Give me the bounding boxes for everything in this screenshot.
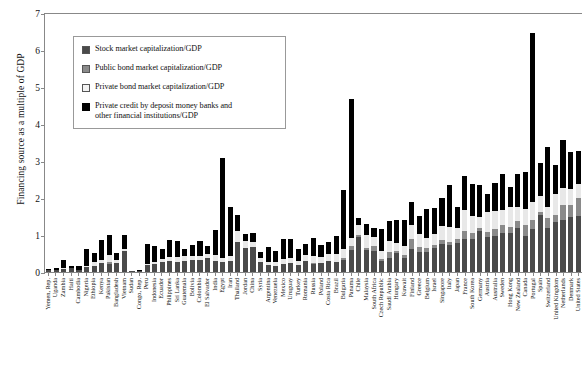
bar-segment [515, 228, 520, 272]
stacked-bar [235, 215, 240, 272]
legend-label: Private credit by deposit money banks an… [95, 101, 232, 120]
bar-segment [235, 242, 240, 272]
bar-segment [500, 225, 505, 233]
x-tick-label: Sri Lanka [174, 278, 180, 302]
bar-segment [99, 240, 104, 260]
x-tick-label: Iran [227, 278, 233, 288]
x-label-slot: Thailand [233, 277, 241, 365]
bar-segment [326, 254, 331, 261]
stacked-bar [576, 151, 581, 272]
bar-segment [515, 221, 520, 228]
bar-segment [432, 208, 437, 234]
bar-segment [152, 246, 157, 262]
x-label-slot: Hong Kong [506, 277, 514, 365]
stacked-bar-chart: Financing source as a multiple of GDP 01… [0, 0, 584, 368]
bar-segment [326, 242, 331, 254]
bar-segment [470, 216, 475, 233]
bar-segment [432, 234, 437, 245]
bar-segment [402, 246, 407, 255]
bar-segment [243, 241, 248, 248]
stacked-bar [84, 249, 89, 272]
x-tick-label: Bulgaria [340, 278, 346, 299]
bar-slot [574, 14, 582, 272]
bar-segment [394, 253, 399, 272]
stacked-bar [553, 165, 558, 272]
stacked-bar [485, 194, 490, 272]
stacked-bar [114, 253, 119, 272]
bar-segment [311, 264, 316, 272]
bar-segment [303, 244, 308, 256]
bar-segment [99, 263, 104, 272]
bar-slot [469, 14, 477, 272]
bar-segment [160, 262, 165, 272]
bar-slot [60, 14, 68, 272]
x-label-slot: Netherlands [559, 277, 567, 365]
bar-segment [122, 251, 127, 272]
bar-slot [453, 14, 461, 272]
bar-slot [385, 14, 393, 272]
bar-segment [447, 185, 452, 227]
bar-segment [492, 229, 497, 236]
bar-slot [461, 14, 469, 272]
bar-segment [439, 198, 444, 225]
bar-segment [190, 260, 195, 272]
bar-segment [424, 252, 429, 272]
stacked-bar [326, 242, 331, 272]
x-tick-label: Pakistan [105, 278, 111, 299]
bar-segment [356, 237, 361, 272]
bar-segment [462, 239, 467, 272]
x-tick-label: Haiti [67, 278, 73, 290]
bar-segment [492, 183, 497, 211]
x-tick-label: Austria [484, 278, 490, 296]
bar-segment [92, 253, 97, 262]
x-tick-label: Canada [522, 278, 528, 297]
bar-segment [84, 249, 89, 266]
bar-segment [266, 247, 271, 263]
bar-slot [287, 14, 295, 272]
bar-segment [160, 249, 165, 259]
bar-slot [506, 14, 514, 272]
x-tick-label: United Kingdom [552, 278, 558, 320]
x-tick-label: South Korea [469, 278, 475, 309]
x-label-slot: Sudan [127, 277, 135, 365]
bar-segment [455, 207, 460, 228]
x-tick-label: Romania [302, 278, 308, 300]
x-label-slot: Russia [309, 277, 317, 365]
stacked-bar [197, 241, 202, 272]
bar-segment [500, 174, 505, 209]
stacked-bar [356, 218, 361, 272]
bar-segment [152, 264, 157, 272]
bar-segment [175, 241, 180, 258]
stacked-bar [515, 174, 520, 272]
bar-slot [521, 14, 529, 272]
bar-slot [310, 14, 318, 272]
x-tick-label: Finland [408, 278, 414, 297]
bar-segment [182, 261, 187, 272]
bar-segment [364, 224, 369, 235]
legend-item: Stock market capitalization/GDP [82, 44, 277, 54]
x-label-slot: South Korea [468, 277, 476, 365]
bar-segment [409, 202, 414, 224]
x-tick-label: Chile [355, 278, 361, 291]
stacked-bar [99, 240, 104, 272]
x-axis-labels: Yemen, Rep.UgandaZambiaHaitiCambodiaNige… [44, 277, 582, 365]
legend-item: Private bond market capitalization/GDP [82, 82, 277, 92]
x-label-slot: Cambodia [74, 277, 82, 365]
x-tick-label: Costa Rica [325, 278, 331, 305]
stacked-bar [273, 251, 278, 272]
bar-segment [402, 220, 407, 247]
bar-segment [409, 225, 414, 240]
bar-segment [266, 265, 271, 272]
stacked-bar [538, 163, 543, 272]
stacked-bar [175, 241, 180, 272]
bar-segment [523, 172, 528, 209]
legend-swatch-icon [82, 46, 90, 54]
stacked-bar [394, 220, 399, 273]
bar-segment [409, 239, 414, 249]
stacked-bar [424, 209, 429, 272]
bar-segment [243, 234, 248, 241]
stacked-bar [523, 172, 528, 272]
bar-slot [295, 14, 303, 272]
bar-slot [348, 14, 356, 272]
bar-slot [499, 14, 507, 272]
